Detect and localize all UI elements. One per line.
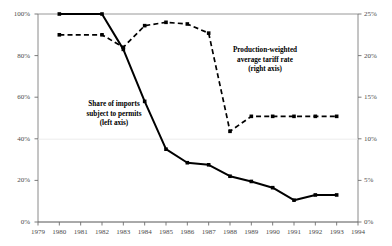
right-axis-tick-15: 15% xyxy=(364,93,392,101)
left-axis-tick-20: 20% xyxy=(0,176,30,184)
data-point-marker xyxy=(314,193,318,197)
chart-container: 100% 80% 60% 40% 20% 0% 25% 20% 15% 10% … xyxy=(0,0,392,246)
left-axis-tick-100: 100% xyxy=(0,10,30,18)
left-axis-tick-40: 40% xyxy=(0,135,30,143)
data-point-marker xyxy=(164,21,168,25)
data-point-marker xyxy=(292,115,296,119)
data-point-marker xyxy=(335,115,339,119)
chart-plot-area xyxy=(0,0,392,246)
left-axis-tick-60: 60% xyxy=(0,93,30,101)
x-axis-ticks xyxy=(38,222,358,226)
data-point-marker xyxy=(228,174,232,178)
data-point-marker xyxy=(250,180,254,184)
right-axis-ticks xyxy=(358,14,362,222)
left-axis-tick-80: 80% xyxy=(0,52,30,60)
right-axis-tick-20: 20% xyxy=(364,52,392,60)
data-point-marker xyxy=(122,48,126,52)
annotation-right-line-3: (right axis) xyxy=(233,65,297,75)
left-axis-ticks xyxy=(35,14,39,222)
data-point-marker xyxy=(100,12,104,16)
annotation-right-series: Production-weighted average tariff rate … xyxy=(233,46,297,75)
data-point-marker xyxy=(207,163,211,167)
x-axis-tick-1994: 1994 xyxy=(344,228,372,236)
data-point-marker xyxy=(228,130,232,134)
annotation-right-line-2: average tariff rate xyxy=(233,56,297,66)
right-axis-tick-5: 5% xyxy=(364,176,392,184)
right-axis-tick-0: 0% xyxy=(364,218,392,226)
data-point-marker xyxy=(186,161,190,165)
data-point-marker xyxy=(207,31,211,35)
right-axis-tick-25: 25% xyxy=(364,10,392,18)
annotation-left-line-1: Share of imports xyxy=(86,100,141,110)
data-point-marker xyxy=(143,100,147,104)
annotation-left-line-2: subject to permits xyxy=(86,110,141,120)
data-point-marker xyxy=(164,147,168,151)
data-point-marker xyxy=(292,198,296,202)
data-point-marker xyxy=(186,22,190,26)
data-point-marker xyxy=(58,33,62,37)
data-point-marker xyxy=(335,193,339,197)
data-point-marker xyxy=(58,12,62,16)
data-point-marker xyxy=(100,33,104,37)
annotation-left-series: Share of imports subject to permits (lef… xyxy=(86,100,141,129)
data-point-marker xyxy=(250,115,254,119)
data-point-marker xyxy=(271,115,275,119)
data-point-marker xyxy=(143,24,147,28)
data-point-marker xyxy=(271,186,275,190)
annotation-right-line-1: Production-weighted xyxy=(233,46,297,56)
right-axis-tick-10: 10% xyxy=(364,135,392,143)
data-point-marker xyxy=(314,115,318,119)
left-axis-tick-0: 0% xyxy=(0,218,30,226)
annotation-left-line-3: (left axis) xyxy=(86,119,141,129)
